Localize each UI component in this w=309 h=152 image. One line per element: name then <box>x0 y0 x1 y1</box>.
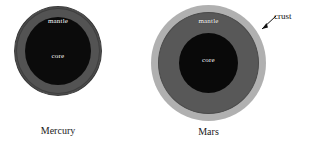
crust-label: crust <box>274 10 292 22</box>
mercury-core-layer <box>25 17 91 85</box>
mars-caption: Mars <box>151 125 266 138</box>
mercury-diagram: mantle core <box>14 6 102 96</box>
mars-diagram: mantle core <box>151 5 266 121</box>
crust-callout: crust <box>252 10 309 40</box>
mercury-caption: Mercury <box>14 124 102 137</box>
planet-interiors-figure: mantle core Mercury mantle core Mars cru… <box>0 0 309 152</box>
mars-core-layer <box>179 33 238 93</box>
